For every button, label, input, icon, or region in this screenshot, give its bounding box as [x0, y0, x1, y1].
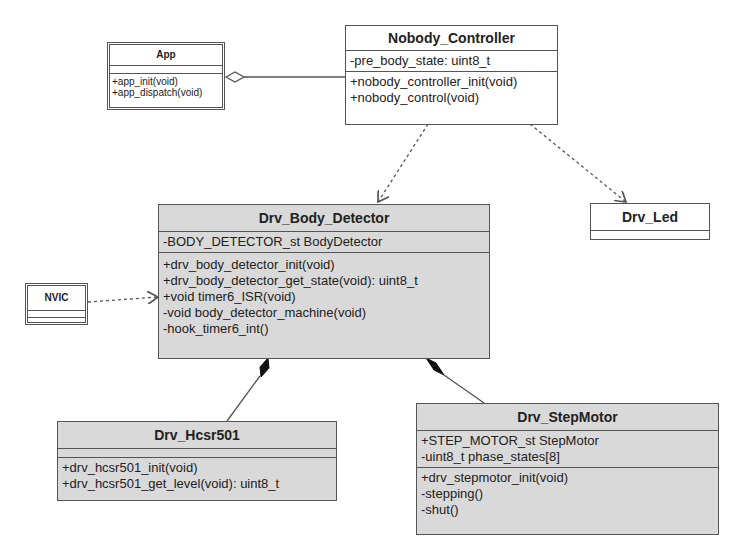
attributes-section [110, 66, 222, 74]
class-drv-led[interactable]: Drv_Led [590, 203, 710, 240]
class-drv-body-detector[interactable]: Drv_Body_Detector -BODY_DETECTOR_st Body… [158, 204, 490, 359]
aggregation-app-controller [226, 72, 345, 82]
dependency-nvic-bodydetector [88, 297, 158, 302]
attributes-section: -BODY_DETECTOR_st BodyDetector [159, 232, 489, 253]
method: +drv_hcsr501_init(void) [62, 460, 332, 476]
method: +drv_body_detector_init(void) [163, 257, 485, 273]
method: +drv_body_detector_get_state(void): uint… [163, 273, 485, 289]
methods-section: +drv_stepmotor_init(void) -stepping() -s… [417, 468, 718, 520]
method: +void timer6_ISR(void) [163, 289, 485, 305]
class-nobody-controller[interactable]: Nobody_Controller -pre_body_state: uint8… [345, 25, 558, 125]
composition-bodydetector-hcsr501 [227, 358, 269, 421]
methods-section: +app_init(void) +app_dispatch(void) [110, 74, 222, 100]
class-drv-hcsr501[interactable]: Drv_Hcsr501 +drv_hcsr501_init(void) +drv… [57, 421, 337, 501]
method: +nobody_control(void) [350, 90, 553, 106]
attribute: -pre_body_state: uint8_t [350, 53, 553, 69]
methods-section: +drv_body_detector_init(void) +drv_body_… [159, 253, 489, 339]
method: -stepping() [421, 486, 714, 502]
method: +app_init(void) [112, 76, 220, 87]
class-title: Drv_Hcsr501 [58, 422, 336, 449]
method: -shut() [421, 502, 714, 518]
class-app[interactable]: App +app_init(void) +app_dispatch(void) [107, 42, 225, 110]
method: +nobody_controller_init(void) [350, 74, 553, 90]
method: -hook_timer6_int() [163, 321, 485, 337]
method: -void body_detector_machine(void) [163, 305, 485, 321]
class-title: Drv_Body_Detector [159, 205, 489, 232]
methods-section: +drv_hcsr501_init(void) +drv_hcsr501_get… [58, 458, 336, 494]
methods-section [28, 318, 85, 324]
composition-bodydetector-stepmotor [426, 358, 484, 403]
method: +app_dispatch(void) [112, 87, 220, 98]
class-nvic[interactable]: NVIC [25, 283, 88, 325]
class-title: App [110, 45, 222, 66]
class-title: NVIC [28, 286, 85, 311]
attributes-section: -pre_body_state: uint8_t [346, 51, 557, 72]
attributes-section [58, 449, 336, 458]
attribute: -uint8_t phase_states[8] [421, 449, 714, 465]
attribute: +STEP_MOTOR_st StepMotor [421, 433, 714, 449]
class-title: Drv_Led [591, 204, 709, 231]
attribute: -BODY_DETECTOR_st BodyDetector [163, 234, 485, 250]
methods-section: +nobody_controller_init(void) +nobody_co… [346, 72, 557, 108]
class-drv-stepmotor[interactable]: Drv_StepMotor +STEP_MOTOR_st StepMotor -… [416, 403, 719, 535]
attributes-section [591, 231, 709, 237]
dependency-controller-led [530, 124, 626, 202]
method: +drv_stepmotor_init(void) [421, 470, 714, 486]
method: +drv_hcsr501_get_level(void): uint8_t [62, 476, 332, 492]
class-title: Drv_StepMotor [417, 404, 718, 431]
attributes-section [28, 311, 85, 318]
dependency-controller-bodydetector [378, 124, 428, 202]
attributes-section: +STEP_MOTOR_st StepMotor -uint8_t phase_… [417, 431, 718, 468]
class-title: Nobody_Controller [346, 26, 557, 51]
